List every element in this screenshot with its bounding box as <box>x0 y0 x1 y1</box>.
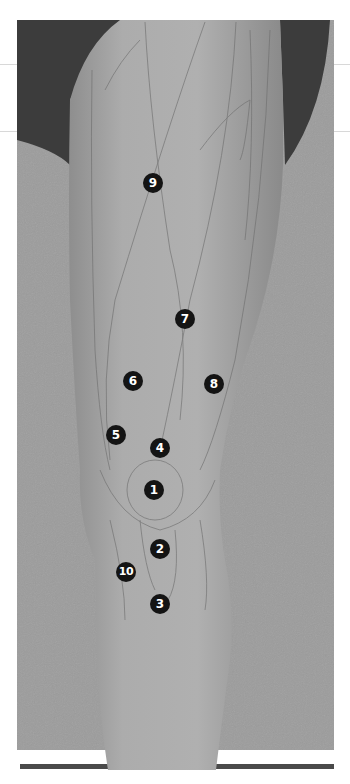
point-marker-8: 8 <box>204 374 224 394</box>
point-marker-1: 1 <box>144 480 164 500</box>
leg-illustration <box>0 0 350 784</box>
point-marker-5: 5 <box>106 425 126 445</box>
point-marker-9: 9 <box>143 173 163 193</box>
point-marker-4: 4 <box>150 438 170 458</box>
point-marker-3: 3 <box>150 594 170 614</box>
point-marker-2: 2 <box>150 539 170 559</box>
point-marker-6: 6 <box>123 371 143 391</box>
point-marker-7: 7 <box>175 309 195 329</box>
point-marker-10: 10 <box>116 562 136 582</box>
